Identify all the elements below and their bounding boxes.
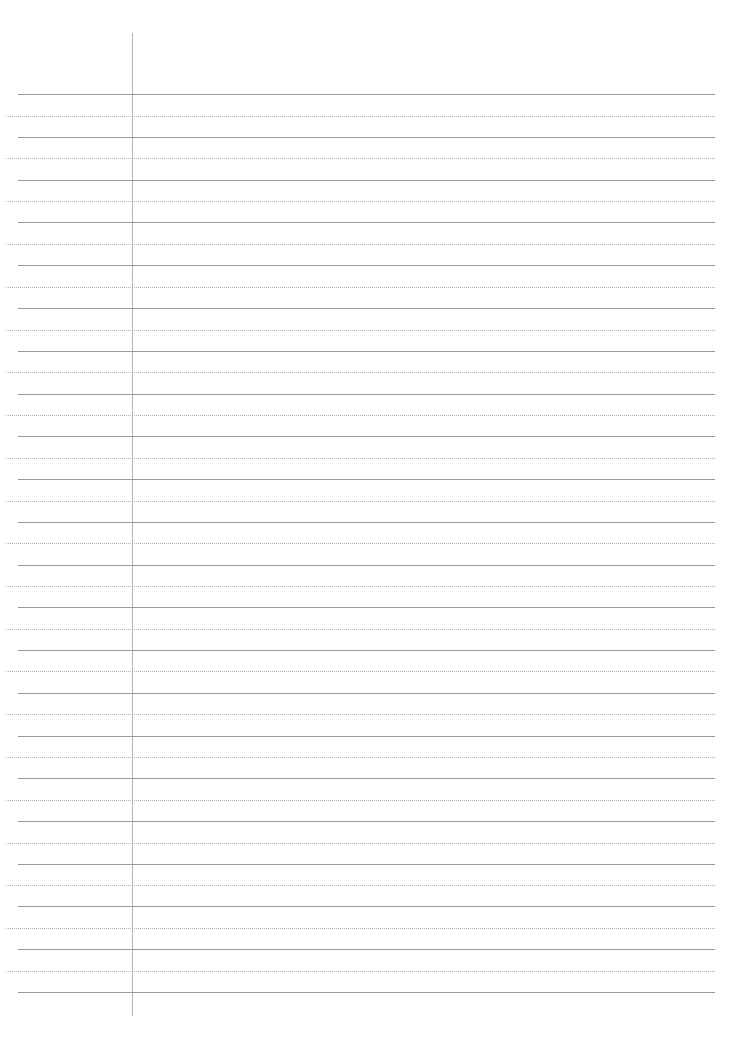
- dotted-guide-line: [6, 800, 715, 801]
- dotted-guide-line: [6, 244, 715, 245]
- dotted-guide-line: [6, 714, 715, 715]
- solid-rule-line: [18, 565, 715, 566]
- dotted-guide-line: [6, 757, 715, 758]
- solid-rule-line: [18, 607, 715, 608]
- solid-rule-line: [18, 436, 715, 437]
- solid-rule-line: [18, 222, 715, 223]
- solid-rule-line: [18, 180, 715, 181]
- solid-rule-line: [18, 94, 715, 95]
- solid-rule-line: [18, 351, 715, 352]
- dotted-guide-line: [6, 330, 715, 331]
- solid-rule-line: [18, 137, 715, 138]
- dotted-guide-line: [6, 158, 715, 159]
- lined-paper-page: [0, 0, 747, 1042]
- solid-rule-line: [18, 864, 715, 865]
- dotted-guide-line: [6, 372, 715, 373]
- solid-rule-line: [18, 693, 715, 694]
- solid-rule-line: [18, 821, 715, 822]
- dotted-guide-line: [6, 415, 715, 416]
- dotted-guide-line: [6, 885, 715, 886]
- dotted-guide-line: [6, 543, 715, 544]
- dotted-guide-line: [6, 586, 715, 587]
- solid-rule-line: [18, 992, 715, 993]
- solid-rule-line: [18, 949, 715, 950]
- solid-rule-line: [18, 308, 715, 309]
- solid-rule-line: [18, 265, 715, 266]
- solid-rule-line: [18, 778, 715, 779]
- dotted-guide-line: [6, 116, 715, 117]
- dotted-guide-line: [6, 671, 715, 672]
- solid-rule-line: [18, 736, 715, 737]
- dotted-guide-line: [6, 928, 715, 929]
- dotted-guide-line: [6, 843, 715, 844]
- dotted-guide-line: [6, 287, 715, 288]
- dotted-guide-line: [6, 971, 715, 972]
- dotted-guide-line: [6, 458, 715, 459]
- dotted-guide-line: [6, 501, 715, 502]
- solid-rule-line: [18, 522, 715, 523]
- dotted-guide-line: [6, 201, 715, 202]
- solid-rule-line: [18, 906, 715, 907]
- solid-rule-line: [18, 650, 715, 651]
- solid-rule-line: [18, 479, 715, 480]
- dotted-guide-line: [6, 629, 715, 630]
- solid-rule-line: [18, 394, 715, 395]
